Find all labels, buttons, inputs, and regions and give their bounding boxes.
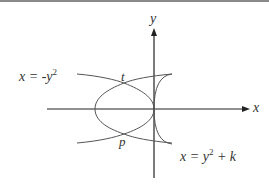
equation-exponent: 2 (53, 67, 58, 77)
right-parabola-equation: x = y2 + k (180, 148, 236, 164)
equation-text: x = y (180, 149, 209, 164)
equation-text: x = -y (19, 69, 53, 84)
x-axis-arrow-icon (242, 106, 250, 112)
x-axis-label: x (253, 101, 259, 115)
point-t-label: t (121, 70, 125, 83)
point-p-label: p (119, 135, 126, 148)
y-axis-label: y (150, 12, 156, 26)
y-axis-arrow-icon (151, 28, 157, 36)
left-parabola-equation: x = -y2 (19, 68, 57, 84)
equation-text-rest: + k (213, 149, 236, 164)
